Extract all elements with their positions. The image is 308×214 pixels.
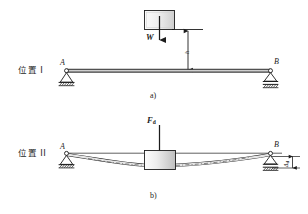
support-a-label: A: [60, 59, 65, 67]
caption-b: b): [150, 192, 157, 200]
beam-a: [66, 69, 271, 72]
deflection-label-main: Δ: [283, 163, 289, 167]
support-a-label-b: A: [60, 143, 65, 151]
beam-impact-diagram: [0, 0, 308, 214]
deflection-label: Δd: [283, 161, 290, 167]
height-dimension-label: h: [184, 51, 190, 54]
dynamic-force-label: Fd: [147, 116, 156, 125]
panel-b-graphics: [59, 125, 300, 170]
deflected-beam-left-fill: [67, 154, 146, 167]
deflected-beam-left: [67, 154, 146, 165]
deflection-label-sub: d: [285, 161, 290, 164]
figure-root: 位置 I A B W h a) 位置 II A B Fd Δd b): [0, 0, 308, 214]
support-b-label: B: [274, 58, 279, 66]
panel-a-graphics: [59, 11, 279, 88]
caption-a: a): [150, 92, 156, 100]
dynamic-force-label-sub: d: [153, 119, 156, 125]
position-label-2: 位置 II: [18, 149, 46, 158]
weight-load-label: W: [146, 33, 154, 42]
position-label-1: 位置 I: [18, 66, 43, 75]
resting-weight-block: [145, 151, 176, 170]
support-b-label-b: B: [274, 141, 279, 149]
